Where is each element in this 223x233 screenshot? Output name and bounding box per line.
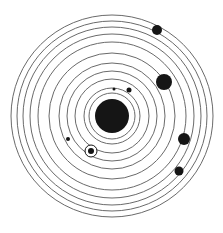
planet-left: [66, 137, 70, 141]
sun: [95, 99, 129, 133]
solar-system-diagram: [0, 0, 223, 233]
outer-planet-top: [152, 25, 162, 35]
small-moon-dot: [113, 88, 116, 91]
giant-planet: [156, 74, 172, 90]
inner-planet: [127, 88, 132, 93]
highlighted-planet: [88, 148, 94, 154]
planet-lower-right: [175, 167, 184, 176]
planet-right: [178, 133, 190, 145]
